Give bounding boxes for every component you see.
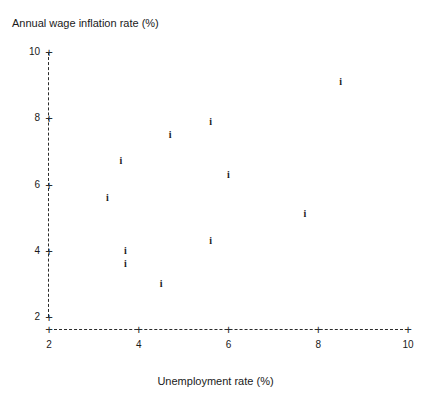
y-tick-mark: + [45,311,53,324]
data-point: i [124,259,127,269]
y-tick-mark: + [45,46,53,59]
y-axis-line [48,52,49,317]
y-tick-label: 6 [16,179,40,191]
data-point: i [303,209,306,219]
y-tick-mark: + [45,112,53,125]
scatter-plot-figure: Annual wage inflation rate (%) Unemploym… [0,0,431,399]
x-tick-label: 10 [402,339,413,351]
y-tick-label: 10 [16,46,40,58]
data-point: i [106,193,109,203]
x-axis-line [49,329,408,330]
y-tick-mark: + [45,244,53,257]
y-tick-label: 8 [16,112,40,124]
x-tick-label: 2 [46,339,52,351]
data-point: i [209,117,212,127]
y-axis-title: Annual wage inflation rate (%) [12,16,159,30]
x-tick-label: 6 [226,339,232,351]
y-tick-mark: + [45,178,53,191]
data-point: i [227,170,230,180]
data-point: i [339,77,342,87]
x-tick-label: 4 [136,339,142,351]
y-tick-label: 2 [16,311,40,323]
data-point: i [209,236,212,246]
x-tick-label: 8 [315,339,321,351]
y-tick-label: 4 [16,245,40,257]
data-point: i [160,279,163,289]
data-point: i [169,130,172,140]
x-axis-title: Unemployment rate (%) [0,374,431,388]
data-point: i [119,156,122,166]
data-point: i [124,246,127,256]
